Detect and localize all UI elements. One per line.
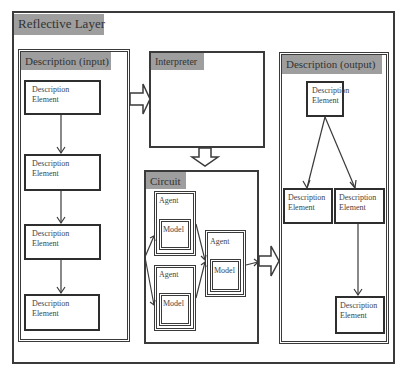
element-label: Element [32, 169, 99, 179]
element-label: Description [339, 193, 383, 203]
element-label: Description [340, 301, 383, 311]
input-description-element: Description Element [24, 224, 101, 260]
agent-label: Agent [159, 270, 179, 279]
element-label: Description [32, 159, 99, 169]
element-label: Element [32, 239, 99, 249]
circuit-header: Circuit [146, 172, 186, 189]
output-description-element: Description Element [335, 296, 385, 334]
output-description-element: Description Element [283, 188, 333, 224]
output-description-header: Description (output) [282, 55, 382, 74]
element-label: Element [288, 203, 331, 213]
model-label: Model [163, 299, 184, 308]
interpreter-header: Interpreter [151, 53, 204, 70]
element-label: Description [32, 299, 98, 309]
input-description-element: Description Element [24, 294, 100, 331]
reflective-layer-title: Reflective Layer [14, 14, 104, 35]
input-description-element: Description Element [24, 80, 101, 115]
agent-label: Agent [210, 237, 230, 246]
element-label: Element [339, 203, 383, 213]
input-description-element: Description Element [24, 154, 101, 191]
element-label: Element [340, 311, 383, 321]
element-label: Description [32, 85, 99, 95]
element-label: Description [32, 229, 99, 239]
output-description-element: Description Element [334, 188, 385, 224]
model-box [210, 259, 241, 292]
element-label: Element [312, 96, 342, 106]
element-label: Description [288, 193, 331, 203]
element-label: Element [32, 95, 99, 105]
model-label: Model [163, 225, 184, 234]
output-description-element: Description Element [306, 81, 344, 117]
element-label: Description [312, 86, 342, 96]
model-label: Model [214, 266, 235, 275]
element-label: Element [32, 309, 98, 319]
model-box [159, 293, 191, 326]
model-box [159, 219, 191, 250]
agent-label: Agent [159, 196, 179, 205]
input-description-header: Description (input) [21, 52, 111, 70]
